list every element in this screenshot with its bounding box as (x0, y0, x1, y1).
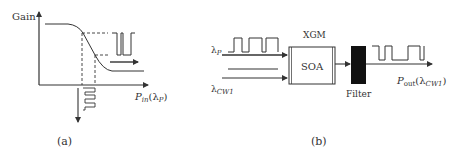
output-pulse-waveform (372, 46, 424, 60)
xgm-label: XGM (303, 30, 326, 40)
y-axis-label: Gain (12, 11, 36, 22)
pump-pulse-waveform (228, 38, 278, 52)
filter-label: Filter (346, 89, 372, 99)
caption-b: (b) (311, 135, 327, 148)
output-power-label: Pout(λCW1) (396, 75, 447, 88)
filter-block (351, 46, 366, 84)
pump-wavelength-label: λP (211, 45, 222, 57)
dashed-guides (82, 33, 108, 85)
soa-block: SOA (289, 47, 335, 84)
input-pulse-waveform (83, 88, 95, 110)
diagram-canvas: Gain Pin(λP) (a) λP (0, 0, 461, 156)
soa-label: SOA (301, 61, 324, 72)
x-axis-label: Pin(λP) (134, 91, 167, 104)
gain-curve (45, 24, 144, 71)
panel-b-xgm-setup: λP λCW1 XGM SOA Filter (211, 30, 447, 148)
caption-a: (a) (57, 135, 72, 148)
panel-a-gain-saturation: Gain Pin(λP) (a) (12, 11, 167, 148)
output-pulse-waveform (112, 33, 135, 55)
cw-wavelength-label: λCW1 (211, 84, 234, 96)
